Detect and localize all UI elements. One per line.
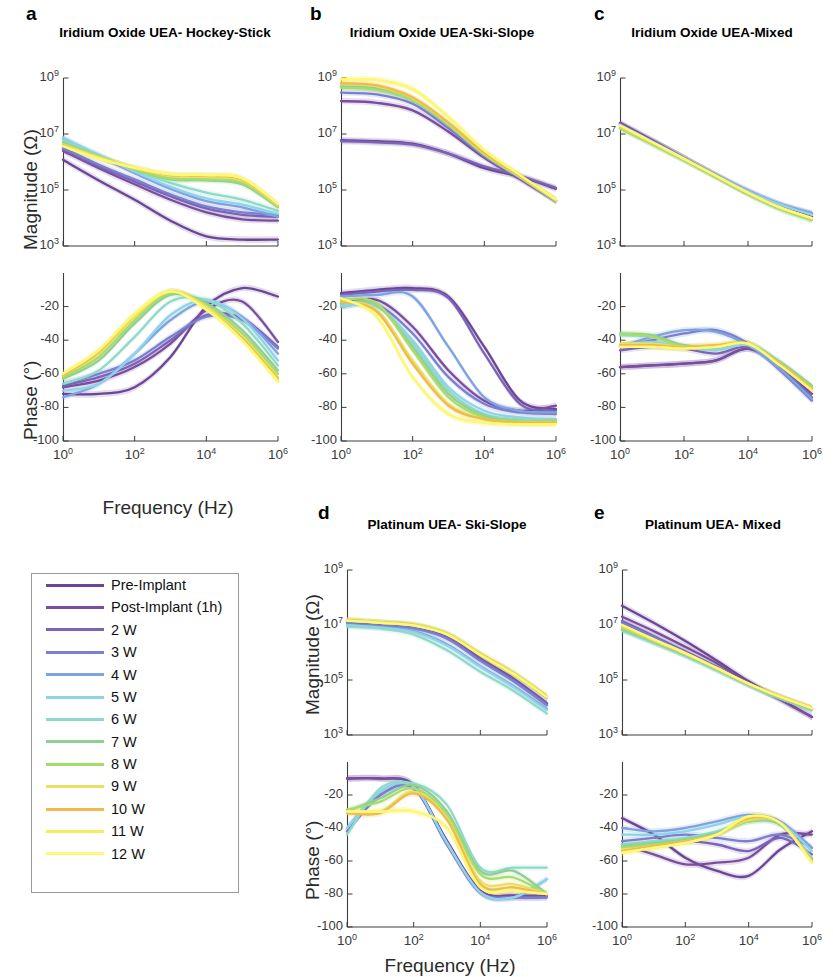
x-tick-label: 100 — [600, 934, 644, 948]
y-tick-label: 103 — [17, 238, 59, 251]
legend: Pre-ImplantPost-Implant (1h)2 W3 W4 W5 W… — [31, 573, 239, 893]
y-tick-label: 105 — [574, 182, 616, 195]
x-tick-label: 104 — [726, 448, 770, 462]
y-tick-label: -80 — [295, 399, 337, 412]
legend-item-label: 11 W — [111, 824, 144, 839]
y-tick-label: -80 — [576, 886, 618, 899]
y-tick-label: 105 — [17, 182, 59, 195]
legend-swatch-line-icon — [46, 740, 104, 743]
legend-item[interactable]: Post-Implant (1h) — [32, 596, 238, 618]
plot-svg — [622, 762, 816, 931]
legend-swatch-line-icon — [46, 763, 104, 766]
y-tick-label: -100 — [301, 919, 343, 932]
legend-item[interactable]: 9 W — [32, 776, 238, 798]
plot-svg — [63, 78, 282, 250]
x-tick-label: 104 — [462, 448, 506, 462]
legend-swatch-line-icon — [46, 651, 104, 654]
panel-title-d: Platinum UEA- Ski-Slope — [342, 518, 552, 532]
legend-item-label: Post-Implant (1h) — [111, 600, 222, 615]
y-tick-label: 109 — [576, 562, 618, 575]
y-tick-label: -100 — [17, 433, 59, 446]
panel-letter-a: a — [26, 4, 37, 23]
plot-svg — [63, 273, 282, 445]
y-tick-label: 103 — [301, 727, 343, 740]
series-line — [341, 93, 556, 202]
y-tick-label: -80 — [574, 399, 616, 412]
legend-item[interactable]: 2 W — [32, 619, 238, 641]
y-tick-label: -20 — [17, 299, 59, 312]
panel-letter-d: d — [318, 503, 330, 522]
legend-item[interactable]: Pre-Implant — [32, 574, 238, 596]
x-tick-label: 102 — [113, 448, 157, 462]
panel-title-c: Iridium Oxide UEA-Mixed — [612, 26, 812, 40]
y-tick-label: 109 — [295, 70, 337, 83]
legend-item-label: 4 W — [111, 668, 137, 683]
y-tick-label: -40 — [301, 820, 343, 833]
x-tick-label: 100 — [41, 448, 85, 462]
y-tick-label: 105 — [295, 182, 337, 195]
y-tick-label: 109 — [574, 70, 616, 83]
legend-swatch-line-icon — [46, 696, 104, 699]
y-tick-label: 103 — [576, 727, 618, 740]
panel-title-a: Iridium Oxide UEA- Hockey-Stick — [55, 26, 275, 40]
plot-svg — [620, 78, 816, 250]
y-tick-label: -60 — [295, 366, 337, 379]
legend-item-label: 8 W — [111, 757, 137, 772]
y-tick-label: -60 — [17, 366, 59, 379]
x-tick-label: 102 — [391, 448, 435, 462]
plot-d-phase — [347, 762, 551, 931]
x-tick-label: 104 — [184, 448, 228, 462]
axis-spine — [623, 570, 813, 735]
legend-item[interactable]: 5 W — [32, 686, 238, 708]
legend-swatch-line-icon — [46, 584, 104, 587]
x-tick-label: 102 — [663, 934, 707, 948]
x-tick-label: 100 — [325, 934, 369, 948]
legend-item-label: 7 W — [111, 735, 137, 750]
y-tick-label: -20 — [576, 787, 618, 800]
y-tick-label: -100 — [574, 433, 616, 446]
legend-item[interactable]: 7 W — [32, 731, 238, 753]
panel-title-b: Iridium Oxide UEA-Ski-Slope — [332, 26, 552, 40]
legend-item-label: 6 W — [111, 712, 137, 727]
legend-swatch-line-icon — [46, 852, 104, 855]
plot-b-magnitude — [341, 78, 560, 250]
legend-item-label: 10 W — [111, 802, 145, 817]
x-tick-label: 102 — [662, 448, 706, 462]
legend-item[interactable]: 3 W — [32, 641, 238, 663]
y-tick-label: 107 — [295, 126, 337, 139]
y-tick-label: -20 — [295, 299, 337, 312]
series-std-band — [341, 89, 556, 204]
legend-swatch-line-icon — [46, 673, 104, 676]
y-tick-label: 107 — [576, 617, 618, 630]
plot-a-phase — [63, 273, 282, 445]
y-tick-label: -40 — [574, 332, 616, 345]
plot-svg — [341, 273, 560, 445]
legend-item[interactable]: 10 W — [32, 798, 238, 820]
axis-label-magnitude-bottom: Magnitude (Ω) — [302, 594, 324, 715]
legend-item[interactable]: 8 W — [32, 753, 238, 775]
legend-swatch-line-icon — [46, 830, 104, 833]
x-tick-label: 106 — [790, 934, 833, 948]
plot-c-magnitude — [620, 78, 816, 250]
legend-item-label: Pre-Implant — [111, 578, 186, 593]
y-tick-label: 103 — [295, 238, 337, 251]
panel-letter-b: b — [310, 4, 322, 23]
axis-label-frequency-bottom: Frequency (Hz) — [330, 955, 570, 977]
y-tick-label: -60 — [576, 853, 618, 866]
legend-swatch-line-icon — [46, 606, 104, 609]
legend-item-label: 2 W — [111, 623, 137, 638]
panel-title-e: Platinum UEA- Mixed — [618, 518, 808, 532]
legend-item[interactable]: 11 W — [32, 820, 238, 842]
x-tick-label: 104 — [458, 934, 502, 948]
plot-svg — [347, 570, 551, 739]
legend-item[interactable]: 4 W — [32, 664, 238, 686]
y-tick-label: -40 — [576, 820, 618, 833]
x-tick-label: 100 — [598, 448, 642, 462]
y-tick-label: 107 — [17, 126, 59, 139]
legend-item[interactable]: 12 W — [32, 843, 238, 865]
y-tick-label: -20 — [574, 299, 616, 312]
y-tick-label: 105 — [301, 672, 343, 685]
legend-swatch-line-icon — [46, 785, 104, 788]
y-tick-label: 109 — [301, 562, 343, 575]
legend-item[interactable]: 6 W — [32, 708, 238, 730]
